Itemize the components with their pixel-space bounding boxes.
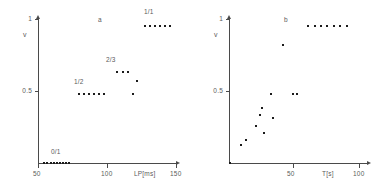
panel-a-y-tick-1: [35, 19, 39, 20]
data-point: [62, 162, 64, 164]
data-point: [116, 71, 118, 73]
panel-a-y-tick-0.5: [35, 91, 39, 92]
data-point: [270, 93, 272, 95]
panel-b-x-tick-label-100: 100: [353, 170, 364, 177]
data-point: [144, 25, 146, 27]
panel-a-x-tick-50: [38, 164, 39, 168]
data-point: [122, 71, 124, 73]
panel-a-label: a: [98, 16, 102, 23]
panel-a-x-tick-100: [107, 164, 108, 168]
data-point: [53, 162, 55, 164]
data-point: [272, 117, 274, 119]
data-point: [56, 162, 58, 164]
panel-b-x-tick-label-50: 50: [287, 170, 295, 177]
data-point: [240, 144, 242, 146]
panel-a-x-tick-label-50: 50: [33, 170, 41, 177]
data-point: [88, 93, 90, 95]
data-point: [292, 93, 294, 95]
panel-a-annotation-1-1: 1/1: [144, 8, 154, 15]
data-point: [103, 93, 105, 95]
data-point: [136, 80, 138, 82]
panel-b-label: b: [284, 16, 288, 23]
panel-a-annotation-0-1: 0/1: [51, 148, 61, 155]
panel-a: 1 0.5 v 50 100 150 LP[ms] a 0/1 1/2 2/3 …: [0, 0, 191, 184]
panel-a-y-tick-label-1: 1: [18, 15, 32, 22]
panel-a-annotation-1-2: 1/2: [74, 78, 84, 85]
panel-b-y-tick-0.5: [226, 91, 230, 92]
panel-b-y-tick-label-1: 1: [209, 15, 223, 22]
data-point: [255, 125, 257, 127]
data-point: [68, 162, 70, 164]
data-point: [164, 25, 166, 27]
data-point: [296, 93, 298, 95]
panel-b-x-axis-line: [229, 163, 368, 164]
data-point: [346, 25, 348, 27]
data-point: [154, 25, 156, 27]
data-point: [98, 93, 100, 95]
data-point: [320, 25, 322, 27]
data-point: [78, 93, 80, 95]
panel-a-x-tick-label-150: 150: [170, 170, 181, 177]
data-point: [282, 44, 284, 46]
data-point: [50, 162, 52, 164]
data-point: [159, 25, 161, 27]
panel-b-x-axis-title: T[s]: [322, 170, 334, 177]
data-point: [149, 25, 151, 27]
data-point: [259, 114, 261, 116]
data-point: [83, 93, 85, 95]
data-point: [132, 93, 134, 95]
panel-b-y-axis-name: v: [214, 31, 218, 38]
panel-b-x-tick-100: [359, 164, 360, 168]
data-point: [229, 162, 231, 164]
panel-b-x-tick-50: [293, 164, 294, 168]
data-point: [314, 25, 316, 27]
panel-b-y-tick-label-0.5: 0.5: [204, 87, 223, 94]
figure-canvas: 1 0.5 v 50 100 150 LP[ms] a 0/1 1/2 2/3 …: [0, 0, 382, 184]
data-point: [245, 139, 247, 141]
data-point: [93, 93, 95, 95]
data-point: [65, 162, 67, 164]
data-point: [261, 107, 263, 109]
panel-a-y-axis-name: v: [23, 31, 27, 38]
panel-a-y-tick-label-0.5: 0.5: [13, 87, 32, 94]
panel-a-x-tick-label-100: 100: [101, 170, 112, 177]
panel-a-annotation-2-3: 2/3: [106, 56, 116, 63]
data-point: [326, 25, 328, 27]
data-point: [263, 132, 265, 134]
data-point: [59, 162, 61, 164]
data-point: [43, 162, 45, 164]
data-point: [127, 71, 129, 73]
panel-b: 1 0.5 v 50 100 T[s] b: [191, 0, 382, 184]
panel-b-x-axis-arrow: [367, 161, 371, 165]
data-point: [169, 25, 171, 27]
data-point: [339, 25, 341, 27]
panel-b-y-tick-1: [226, 19, 230, 20]
data-point: [307, 25, 309, 27]
panel-a-x-axis-title: LP[ms]: [134, 170, 155, 177]
data-point: [333, 25, 335, 27]
data-point: [46, 162, 48, 164]
panel-a-x-tick-150: [176, 164, 177, 168]
